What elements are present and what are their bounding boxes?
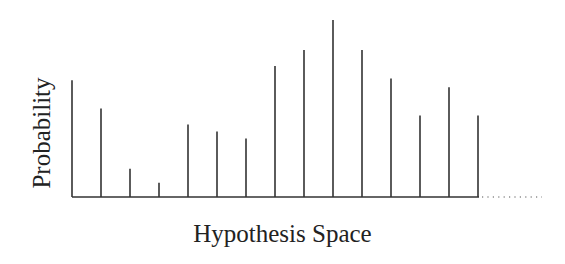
y-axis-label: Probability	[28, 77, 56, 188]
stems	[72, 20, 478, 197]
x-axis-label: Hypothesis Space	[0, 220, 565, 248]
